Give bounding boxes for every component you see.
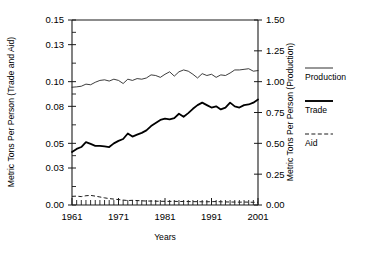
y-tick-label-right: 0.00 — [266, 199, 285, 210]
y-tick-label-left: 0.10 — [46, 76, 65, 87]
chart-legend: ProductionTradeAid — [305, 68, 346, 148]
chart-figure: 0.000.030.050.080.100.130.15 0.000.250.5… — [0, 0, 375, 256]
y-tick-label-left: 0.00 — [46, 199, 65, 210]
x-tick-label: 1961 — [61, 211, 82, 222]
y-tick-label-right: 0.75 — [266, 107, 285, 118]
y-axis-right-tick-labels: 0.000.250.500.751.001.251.50 — [266, 14, 285, 210]
legend-label-aid: Aid — [305, 138, 318, 148]
series-line-trade — [72, 100, 258, 152]
y-tick-label-right: 0.25 — [266, 169, 285, 180]
y-tick-label-left: 0.05 — [46, 138, 65, 149]
y-tick-label-right: 0.50 — [266, 138, 285, 149]
x-axis-title: Years — [154, 232, 176, 242]
x-tick-label: 1991 — [201, 211, 222, 222]
y-tick-label-left: 0.08 — [46, 101, 65, 112]
y-axis-left-title: Metric Tons Per Person (Trade and Aid) — [6, 37, 16, 188]
legend-label-trade: Trade — [305, 105, 327, 115]
y-tick-label-left: 0.03 — [46, 162, 65, 173]
legend-label-production: Production — [305, 72, 346, 82]
y-tick-label-right: 1.25 — [266, 45, 285, 56]
chart-plot-area: 0.000.030.050.080.100.130.15 0.000.250.5… — [0, 0, 375, 256]
y-axis-left-tick-labels: 0.000.030.050.080.100.130.15 — [46, 14, 65, 210]
x-tick-label: 2001 — [247, 211, 268, 222]
y-tick-label-right: 1.00 — [266, 76, 285, 87]
x-axis-tick-labels: 19611971198119912001 — [61, 211, 268, 222]
axis-frame — [72, 20, 258, 205]
x-tick-label: 1971 — [108, 211, 129, 222]
y-tick-label-left: 0.15 — [46, 14, 65, 25]
y-tick-label-left: 0.13 — [46, 39, 65, 50]
y-tick-label-right: 1.50 — [266, 14, 285, 25]
x-tick-label: 1981 — [154, 211, 175, 222]
series-line-production — [72, 69, 258, 88]
y-axis-right-title: Metric Tons Per Person (Production) — [285, 43, 295, 181]
